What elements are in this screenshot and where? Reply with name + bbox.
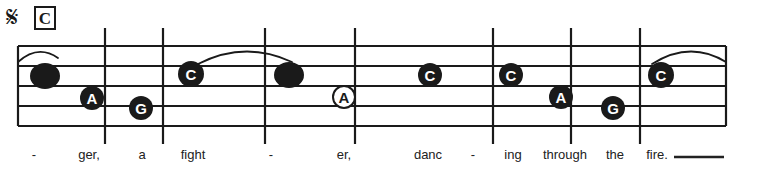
slur-pickup [18, 52, 58, 62]
slur-2 [652, 51, 726, 64]
music-score-sheet: 𝄋 C AGCACCAGC -ger,afight-er,danc-ingthr… [0, 0, 764, 173]
notehead-letter: A [339, 89, 350, 106]
notehead-7-c: C [499, 63, 523, 87]
slur-1 [198, 51, 292, 64]
notehead-letter: G [607, 100, 619, 117]
notehead-2-g: G [129, 96, 153, 120]
notehead-0 [30, 63, 60, 89]
notehead-1-a: A [80, 86, 104, 110]
notehead-shape [30, 63, 60, 89]
notehead-9-g: G [601, 96, 625, 120]
notehead-letter: A [556, 89, 567, 106]
notehead-letter: C [506, 67, 517, 84]
notehead-5-a: A [333, 86, 355, 108]
slurs-group [18, 51, 726, 64]
notehead-letter: A [87, 90, 98, 107]
notehead-4 [274, 62, 304, 88]
notehead-3-c: C [178, 61, 204, 87]
notehead-letter: G [135, 100, 147, 117]
notehead-letter: C [186, 66, 197, 83]
notehead-letter: C [656, 67, 667, 84]
notehead-letter: C [425, 67, 436, 84]
staff-graphics: AGCACCAGC [0, 0, 764, 173]
notehead-shape [274, 62, 304, 88]
notehead-6-c: C [418, 63, 442, 87]
notehead-10-c: C [648, 62, 674, 88]
notehead-8-a: A [549, 85, 573, 109]
noteheads-group: AGCACCAGC [30, 61, 674, 120]
